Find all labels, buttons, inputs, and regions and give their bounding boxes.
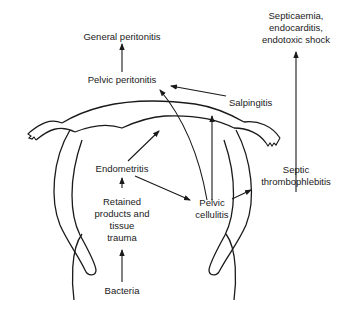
arrow-endometritis-to-cellulitis — [135, 176, 190, 200]
label-endometritis: Endometritis — [96, 163, 149, 174]
uterus-drawing — [28, 101, 280, 300]
diagram-canvas: General peritonitis Pelvic peritonitis S… — [0, 0, 353, 322]
label-septic-2: thrombophlebitis — [261, 176, 331, 187]
arrow-salpingitis-to-pelvic-peritonitis — [171, 86, 226, 96]
label-retained-2: products and — [95, 208, 150, 219]
label-retained-3: tissue — [110, 220, 135, 231]
label-septicaemia-2: endocarditis, — [269, 22, 323, 33]
label-septicaemia-3: endotoxic shock — [262, 34, 330, 45]
arrow-cellulitis-to-pelvic-peritonitis — [160, 90, 207, 200]
label-retained-4: trauma — [107, 232, 137, 243]
label-general-peritonitis: General peritonitis — [83, 31, 160, 42]
label-retained-1: Retained — [103, 196, 141, 207]
label-pelvic-cellulitis-1: Pelvic — [199, 197, 225, 208]
label-bacteria: Bacteria — [105, 285, 141, 296]
label-septicaemia-1: Septicaemia, — [269, 10, 324, 21]
diagram-svg: General peritonitis Pelvic peritonitis S… — [0, 0, 353, 322]
label-salpingitis: Salpingitis — [229, 97, 273, 108]
label-septic-1: Septic — [283, 164, 310, 175]
label-pelvic-peritonitis: Pelvic peritonitis — [88, 74, 157, 85]
arrow-endometritis-to-horn — [128, 131, 159, 161]
label-pelvic-cellulitis-2: cellulitis — [195, 209, 229, 220]
arrow-cellulitis-to-septic — [232, 190, 251, 199]
labels: General peritonitis Pelvic peritonitis S… — [83, 10, 331, 296]
